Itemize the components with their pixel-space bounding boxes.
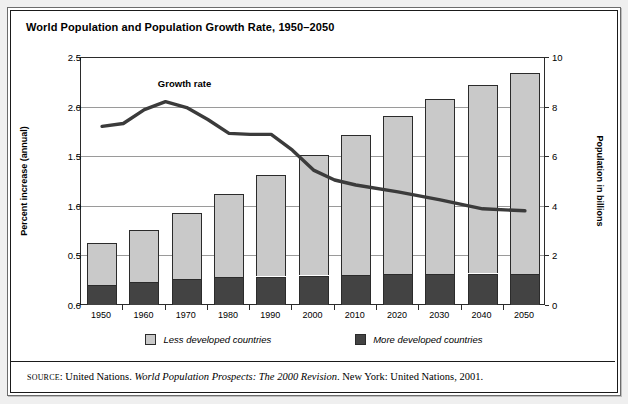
x-axis-tick-label: 2050 [514, 310, 534, 320]
x-axis-tick-label: 1980 [218, 310, 238, 320]
chart-title: World Population and Population Growth R… [26, 21, 334, 33]
growth-rate-line [81, 57, 546, 305]
x-axis-tick-mark [334, 305, 335, 310]
x-axis-tick-label: 2030 [429, 310, 449, 320]
y-axis-left-tick-mark [76, 57, 80, 58]
x-axis-tick-label: 2020 [387, 310, 407, 320]
x-axis-tick-mark [418, 305, 419, 310]
y-axis-right-tick-mark [545, 206, 549, 207]
plot-area [80, 57, 545, 305]
x-axis-tick-mark [461, 305, 462, 310]
source-divider [11, 361, 615, 362]
y-axis-left-tick-mark [76, 107, 80, 108]
x-axis-tick-mark [165, 305, 166, 310]
x-axis-tick-mark [291, 305, 292, 310]
figure-background: World Population and Population Growth R… [0, 0, 628, 404]
y-axis-left-tick-mark [76, 305, 80, 306]
legend-label-less-developed: Less developed countries [163, 334, 271, 345]
x-axis-tick-label: 1950 [91, 310, 111, 320]
y-axis-right-tick-mark [545, 305, 549, 306]
legend-swatch-icon-more-developed [355, 334, 366, 345]
legend-item-less-developed: Less developed countries [145, 334, 271, 345]
y-axis-right-tick-label: 6 [552, 151, 557, 162]
x-axis-tick-label: 1990 [260, 310, 280, 320]
x-axis-tick-label: 2000 [302, 310, 322, 320]
source-work-title: World Population Prospects: The 2000 Rev… [134, 371, 337, 382]
x-axis-tick-mark [122, 305, 123, 310]
growth-rate-annotation: Growth rate [158, 78, 211, 89]
y-axis-left-label: Percent increase (annual) [19, 126, 29, 236]
x-axis-tick-mark [207, 305, 208, 310]
x-axis-tick-label: 1970 [176, 310, 196, 320]
source-publisher: United Nations. [65, 371, 134, 382]
x-axis-tick-label: 2010 [345, 310, 365, 320]
y-axis-right-tick-mark [545, 255, 549, 256]
y-axis-right-tick-label: 4 [552, 200, 557, 211]
y-axis-right-tick-label: 10 [552, 52, 563, 63]
legend-swatch-icon-less-developed [145, 334, 156, 345]
source-tail: . New York: United Nations, 2001. [337, 371, 483, 382]
x-axis-tick-mark [249, 305, 250, 310]
y-axis-right-tick-mark [545, 156, 549, 157]
legend-item-more-developed: More developed countries [355, 334, 482, 345]
source-note: SOURCE: United Nations. World Population… [27, 371, 608, 382]
x-axis-tick-mark [503, 305, 504, 310]
y-axis-right-tick-label: 0 [552, 300, 557, 311]
chart-legend: Less developed countries More developed … [0, 334, 628, 345]
y-axis-right-tick-mark [545, 57, 549, 58]
y-axis-right-tick-label: 2 [552, 250, 557, 261]
y-axis-right-label: Population in billions [595, 136, 605, 227]
legend-label-more-developed: More developed countries [373, 334, 482, 345]
y-axis-right-tick-mark [545, 107, 549, 108]
x-axis-tick-mark [376, 305, 377, 310]
y-axis-left-tick-mark [76, 255, 80, 256]
y-axis-left-tick-mark [76, 206, 80, 207]
y-axis-right-tick-label: 8 [552, 101, 557, 112]
source-label: SOURCE [27, 373, 60, 382]
y-axis-left-tick-mark [76, 156, 80, 157]
x-axis-tick-label: 2040 [472, 310, 492, 320]
x-axis-tick-label: 1960 [133, 310, 153, 320]
